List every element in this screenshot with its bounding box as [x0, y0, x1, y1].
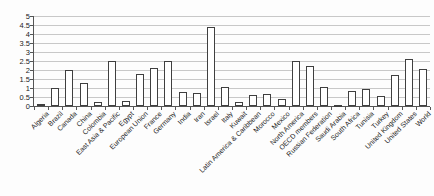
- x-tick-0: [34, 107, 35, 110]
- x-tick-24: [373, 107, 374, 110]
- x-tick-12: [204, 107, 205, 110]
- x-tick-3: [76, 107, 77, 110]
- bar-india: [179, 92, 187, 106]
- x-tick-19: [303, 107, 304, 110]
- x-tick-4: [91, 107, 92, 110]
- x-axis-label-world: World: [414, 110, 432, 128]
- bar-italy: [221, 87, 229, 106]
- bar-turkey: [377, 96, 385, 106]
- x-tick-8: [147, 107, 148, 110]
- bar-world: [419, 69, 427, 106]
- y-axis-label-0.5: 0.5: [0, 93, 30, 102]
- x-tick-1: [48, 107, 49, 110]
- bar-canada: [65, 70, 73, 106]
- x-tick-2: [62, 107, 63, 110]
- y-axis-label-0: 0: [0, 102, 30, 111]
- bar-east-asia-pacific: [108, 61, 116, 106]
- y-axis-label-4.5: 4.5: [0, 21, 30, 30]
- x-tick-11: [190, 107, 191, 110]
- bar-germany: [164, 61, 172, 106]
- bar-china: [80, 83, 88, 106]
- x-tick-15: [246, 107, 247, 110]
- gridline-1.5: [34, 79, 430, 80]
- gridline-2: [34, 70, 430, 71]
- x-tick-5: [105, 107, 106, 110]
- y-axis-line: [33, 16, 34, 107]
- gridline-3: [34, 52, 430, 53]
- bar-united-states: [405, 59, 413, 106]
- bar-israel: [207, 27, 215, 106]
- bar-oecd-members: [306, 66, 314, 106]
- bar-latin-america-caribbean: [249, 95, 257, 106]
- x-tick-25: [388, 107, 389, 110]
- x-tick-26: [402, 107, 403, 110]
- x-tick-27: [416, 107, 417, 110]
- x-tick-16: [260, 107, 261, 110]
- bar-united-kingdom: [391, 75, 399, 106]
- y-axis-label-2: 2: [0, 66, 30, 75]
- gridline-5: [34, 16, 430, 17]
- bar-morocco: [263, 94, 271, 106]
- bar-colombia: [94, 102, 102, 106]
- bar-egypt: [122, 101, 130, 106]
- gridline-0.5: [34, 97, 430, 98]
- bar-brazil: [51, 88, 59, 106]
- y-axis-label-2.5: 2.5: [0, 57, 30, 66]
- x-tick-14: [232, 107, 233, 110]
- y-axis-label-3: 3: [0, 48, 30, 57]
- bar-tunisia: [362, 89, 370, 106]
- x-tick-13: [218, 107, 219, 110]
- bar-russian-federation: [320, 87, 328, 106]
- bar-kuwait: [235, 102, 243, 106]
- x-tick-20: [317, 107, 318, 110]
- x-tick-21: [331, 107, 332, 110]
- gridline-1: [34, 88, 430, 89]
- x-tick-7: [133, 107, 134, 110]
- x-tick-28: [430, 107, 431, 110]
- bar-iran: [193, 93, 201, 106]
- gridline-4.5: [34, 25, 430, 26]
- x-tick-22: [345, 107, 346, 110]
- x-tick-17: [274, 107, 275, 110]
- x-tick-9: [161, 107, 162, 110]
- x-tick-6: [119, 107, 120, 110]
- bar-saudi-arabia: [334, 105, 342, 107]
- x-axis-label-india: India: [176, 110, 192, 126]
- bar-france: [150, 68, 158, 106]
- gridline-2.5: [34, 61, 430, 62]
- x-tick-23: [359, 107, 360, 110]
- y-axis-label-5: 5: [0, 12, 30, 21]
- gridline-3.5: [34, 43, 430, 44]
- x-axis-label-israel: Israel: [203, 110, 221, 128]
- y-axis-label-4: 4: [0, 30, 30, 39]
- x-tick-18: [289, 107, 290, 110]
- y-axis-label-1: 1: [0, 84, 30, 93]
- y-axis-label-1.5: 1.5: [0, 75, 30, 84]
- bar-european-union: [136, 74, 144, 106]
- bar-algeria: [37, 104, 45, 106]
- bar-south-africa: [348, 91, 356, 106]
- y-axis-label-3.5: 3.5: [0, 39, 30, 48]
- x-tick-10: [175, 107, 176, 110]
- bar-north-america: [292, 61, 300, 106]
- bar-chart-figure: 00.511.522.533.544.55AlgeriaBrazilCanada…: [0, 0, 434, 196]
- bar-mexico: [278, 99, 286, 106]
- gridline-4: [34, 34, 430, 35]
